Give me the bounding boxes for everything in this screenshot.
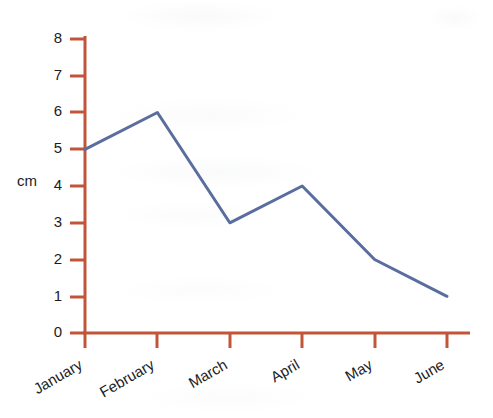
y-tick-label-1: 1 — [54, 287, 62, 304]
x-tick-label-may: May — [342, 355, 375, 384]
y-tick-label-6: 6 — [54, 102, 62, 119]
x-tick-label-march: March — [185, 356, 230, 392]
y-tick-label-3: 3 — [54, 213, 62, 230]
x-tick-label-january: January — [30, 355, 85, 397]
y-tick-label-5: 5 — [54, 139, 62, 156]
x-tick-label-february: February — [97, 355, 158, 400]
y-axis: 8 7 6 5 4 3 2 1 0 cm — [17, 29, 85, 340]
line-chart-figure: 8 7 6 5 4 3 2 1 0 cm January February M — [0, 0, 493, 418]
y-tick-label-8: 8 — [54, 29, 62, 46]
series-line-cm — [85, 113, 447, 297]
x-tick-label-april: April — [268, 356, 302, 386]
y-tick-label-4: 4 — [54, 176, 62, 193]
y-axis-label: cm — [17, 172, 37, 189]
y-tick-label-7: 7 — [54, 66, 62, 83]
y-tick-label-0: 0 — [54, 323, 62, 340]
x-axis: January February March April May June — [30, 333, 470, 400]
y-tick-label-2: 2 — [54, 250, 62, 267]
x-tick-label-june: June — [410, 356, 447, 387]
data-series-cm — [85, 113, 447, 297]
chart-canvas: 8 7 6 5 4 3 2 1 0 cm January February M — [0, 0, 493, 418]
